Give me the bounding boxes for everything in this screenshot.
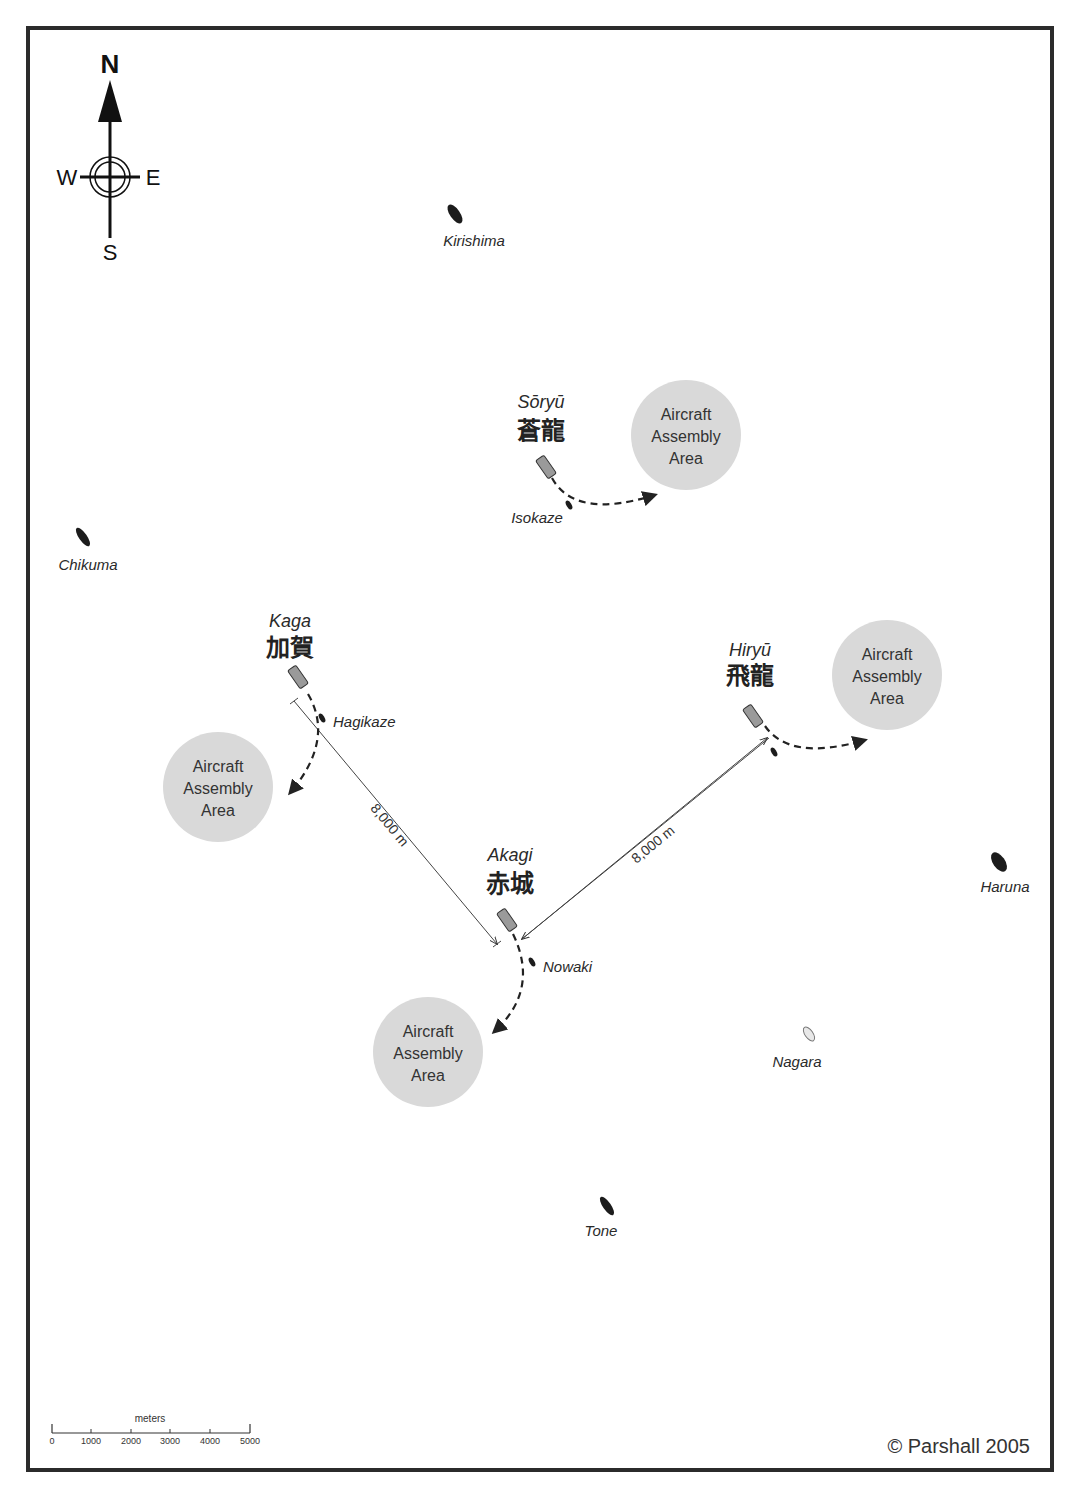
copyright: © Parshall 2005: [887, 1435, 1030, 1457]
assembly-area-akagi: Aircraft Assembly Area: [373, 997, 483, 1107]
svg-text:Aircraft: Aircraft: [403, 1023, 454, 1040]
svg-text:Nowaki: Nowaki: [543, 958, 593, 975]
svg-text:Nagara: Nagara: [772, 1053, 821, 1070]
svg-text:1000: 1000: [81, 1436, 101, 1446]
svg-text:Aircraft: Aircraft: [661, 406, 712, 423]
svg-text:Kirishima: Kirishima: [443, 232, 505, 249]
svg-text:Assembly: Assembly: [852, 668, 921, 685]
svg-text:蒼龍: 蒼龍: [517, 417, 565, 445]
svg-text:Chikuma: Chikuma: [58, 556, 117, 573]
assembly-area-hiryu: Aircraft Assembly Area: [832, 620, 942, 730]
svg-text:3000: 3000: [160, 1436, 180, 1446]
svg-text:Assembly: Assembly: [651, 428, 720, 445]
svg-text:Kaga: Kaga: [269, 611, 311, 631]
compass-s: S: [103, 240, 118, 265]
svg-text:Sōryū: Sōryū: [517, 392, 564, 412]
svg-text:Area: Area: [411, 1067, 445, 1084]
svg-text:0: 0: [49, 1436, 54, 1446]
compass-w: W: [57, 165, 78, 190]
map-canvas: N W E S Aircraft Assembly Area Aircraft …: [0, 0, 1076, 1493]
svg-text:Assembly: Assembly: [183, 780, 252, 797]
svg-text:Area: Area: [201, 802, 235, 819]
svg-text:Hagikaze: Hagikaze: [333, 713, 396, 730]
svg-text:Aircraft: Aircraft: [193, 758, 244, 775]
svg-text:Haruna: Haruna: [980, 878, 1029, 895]
svg-text:2000: 2000: [121, 1436, 141, 1446]
svg-text:Area: Area: [669, 450, 703, 467]
svg-text:Assembly: Assembly: [393, 1045, 462, 1062]
svg-text:Isokaze: Isokaze: [511, 509, 563, 526]
svg-text:赤城: 赤城: [486, 870, 534, 898]
svg-text:加賀: 加賀: [266, 634, 314, 662]
svg-text:Tone: Tone: [585, 1222, 618, 1239]
assembly-area-soryu: Aircraft Assembly Area: [631, 380, 741, 490]
compass-e: E: [146, 165, 161, 190]
svg-text:Aircraft: Aircraft: [862, 646, 913, 663]
svg-text:Hiryū: Hiryū: [729, 640, 771, 660]
svg-text:meters: meters: [135, 1413, 166, 1424]
svg-text:Akagi: Akagi: [486, 845, 533, 865]
svg-text:飛龍: 飛龍: [726, 662, 774, 690]
svg-text:5000: 5000: [240, 1436, 260, 1446]
assembly-area-kaga: Aircraft Assembly Area: [163, 732, 273, 842]
svg-text:Area: Area: [870, 690, 904, 707]
svg-text:4000: 4000: [200, 1436, 220, 1446]
compass-n: N: [101, 49, 120, 79]
